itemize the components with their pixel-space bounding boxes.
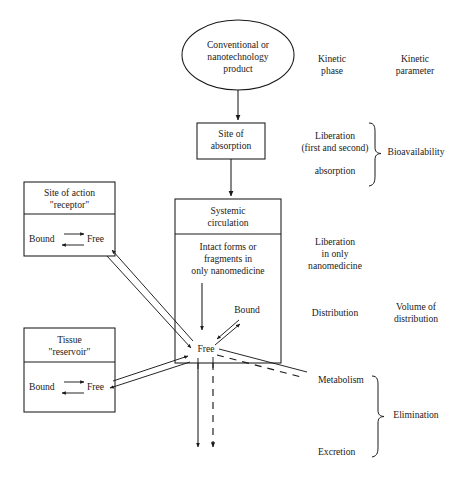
node-systemic-header-line2: circulation [207, 217, 248, 228]
phase-excretion: Excretion [318, 446, 355, 457]
node-site-of-action-header-line2: "receptor" [50, 199, 89, 210]
parameter-volume-of-distribution-line1: Volume of [396, 301, 437, 312]
column-header-kinetic-parameter-line2: parameter [396, 65, 435, 76]
node-site-of-action-free-label: Free [87, 233, 104, 244]
node-product-line2: nanotechnology [207, 51, 268, 62]
node-site-of-action-bound-label: Bound [29, 233, 55, 244]
node-product-line1: Conventional or [207, 39, 270, 50]
parameter-bioavailability: Bioavailability [387, 146, 444, 157]
node-systemic-free-label: Free [197, 343, 214, 354]
pharmacokinetics-diagram: Conventional or nanotechnology product S… [0, 0, 465, 478]
node-product-line3: product [223, 63, 253, 74]
phase-absorption: absorption [315, 165, 356, 176]
node-site-of-absorption-line2: absorption [211, 140, 252, 151]
node-systemic-body-line1: Intact forms or [199, 241, 257, 252]
node-site-of-action-header-line1: Site of action [44, 187, 95, 198]
phase-liberation-nano-line1: Liberation [315, 236, 355, 247]
phase-metabolism: Metabolism [318, 374, 364, 385]
brace-bioavailability [369, 123, 381, 186]
node-tissue-bound-label: Bound [29, 381, 55, 392]
node-systemic-header-line1: Systemic [210, 205, 245, 216]
node-tissue-header-line1: Tissue [57, 334, 82, 345]
node-site-of-absorption-line1: Site of [218, 128, 244, 139]
parameter-volume-of-distribution-line2: distribution [394, 313, 438, 324]
parameter-elimination: Elimination [393, 409, 439, 420]
brace-elimination [372, 376, 384, 457]
arrow-free-to-tissue [110, 362, 190, 388]
diagram-canvas: Conventional or nanotechnology product S… [0, 0, 465, 478]
phase-liberation-line2: (first and second) [301, 142, 368, 154]
arrow-tissue-to-free [113, 356, 188, 381]
node-systemic-body-line3: only nanomedicine [191, 265, 264, 276]
column-header-kinetic-phase-line2: phase [321, 65, 343, 76]
node-systemic-bound-label: Bound [234, 304, 260, 315]
column-header-kinetic-parameter-line1: Kinetic [401, 53, 429, 64]
phase-liberation-nano-line3: nanomedicine [308, 260, 362, 271]
node-tissue-header-line2: "reservoir" [49, 346, 91, 357]
phase-distribution: Distribution [312, 307, 359, 318]
column-header-kinetic-phase-line1: Kinetic [318, 53, 346, 64]
node-systemic-body-line2: fragments in [204, 253, 252, 264]
phase-liberation-nano-line2: in only [322, 248, 349, 259]
node-tissue-free-label: Free [87, 381, 104, 392]
phase-liberation-line1: Liberation [315, 130, 355, 141]
